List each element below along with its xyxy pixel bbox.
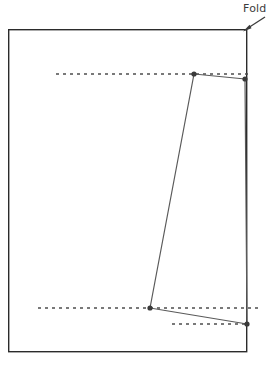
vertex-top-right bbox=[242, 76, 247, 81]
fold-label: Fold bbox=[243, 2, 267, 15]
diagram-canvas bbox=[0, 0, 277, 366]
vertex-bottom-right bbox=[244, 321, 249, 326]
vertex-bottom-left bbox=[147, 305, 152, 310]
fold-arrow bbox=[243, 17, 265, 32]
fold-diagram-figure: Fold bbox=[0, 0, 277, 366]
vertex-top-left bbox=[191, 71, 196, 76]
paper-sheet bbox=[9, 30, 247, 352]
fold-crease-path bbox=[150, 74, 247, 324]
